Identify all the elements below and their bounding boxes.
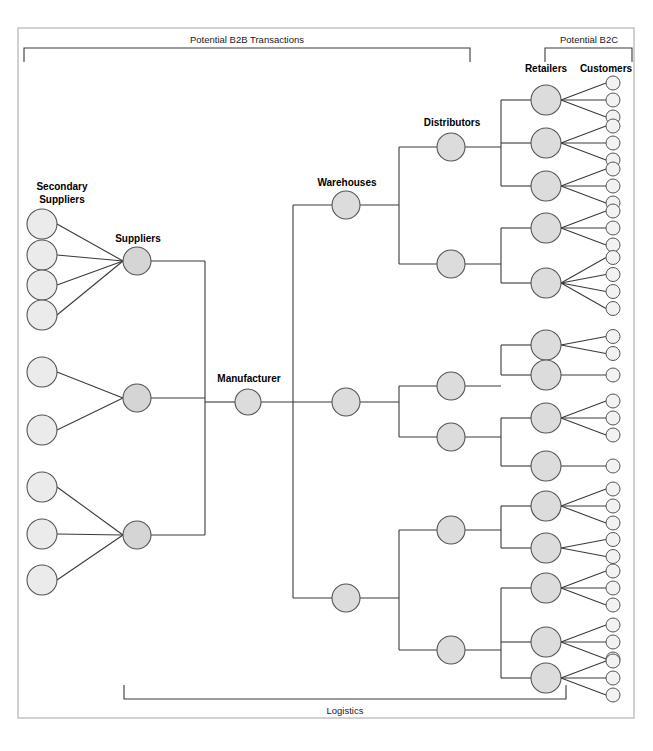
b2b-bracket-label: Potential B2B Transactions xyxy=(190,34,304,45)
node-customer[interactable] xyxy=(606,482,620,496)
node-supplier[interactable] xyxy=(123,521,151,549)
node-warehouse[interactable] xyxy=(332,191,360,219)
node-distributor[interactable] xyxy=(437,133,465,161)
node-customer[interactable] xyxy=(606,671,620,685)
node-retailer[interactable] xyxy=(531,213,561,243)
node-distributor[interactable] xyxy=(437,516,465,544)
retailers-label: Retailers xyxy=(525,63,568,74)
node-customer[interactable] xyxy=(606,368,620,382)
node-customer[interactable] xyxy=(606,268,620,282)
node-customer[interactable] xyxy=(606,428,620,442)
node-customer[interactable] xyxy=(606,564,620,578)
node-customer[interactable] xyxy=(606,499,620,513)
node-customer[interactable] xyxy=(606,347,620,361)
supply-chain-diagram: Potential B2B TransactionsPotential B2CL… xyxy=(0,0,653,751)
node-retailer[interactable] xyxy=(531,573,561,603)
node-secondary-supplier[interactable] xyxy=(27,565,57,595)
node-customer[interactable] xyxy=(606,162,620,176)
node-retailer[interactable] xyxy=(531,451,561,481)
node-secondary-supplier[interactable] xyxy=(27,270,57,300)
node-retailer[interactable] xyxy=(531,663,561,693)
node-customer[interactable] xyxy=(606,251,620,265)
node-retailer[interactable] xyxy=(531,128,561,158)
customers-label: Customers xyxy=(580,63,633,74)
node-distributor[interactable] xyxy=(437,372,465,400)
node-customer[interactable] xyxy=(606,285,620,299)
node-customer[interactable] xyxy=(606,93,620,107)
node-secondary-supplier[interactable] xyxy=(27,209,57,239)
node-customer[interactable] xyxy=(606,221,620,235)
node-customer[interactable] xyxy=(606,688,620,702)
node-customer[interactable] xyxy=(606,654,620,668)
node-secondary-supplier[interactable] xyxy=(27,300,57,330)
node-manufacturer[interactable] xyxy=(235,389,261,415)
node-customer[interactable] xyxy=(606,136,620,150)
node-retailer[interactable] xyxy=(531,85,561,115)
secondary-suppliers-label-line1: Secondary xyxy=(36,181,88,192)
node-retailer[interactable] xyxy=(531,627,561,657)
node-customer[interactable] xyxy=(606,635,620,649)
node-supplier[interactable] xyxy=(123,384,151,412)
node-customer[interactable] xyxy=(606,618,620,632)
node-secondary-supplier[interactable] xyxy=(27,415,57,445)
node-secondary-supplier[interactable] xyxy=(27,519,57,549)
diagram-canvas: Potential B2B TransactionsPotential B2CL… xyxy=(0,0,653,751)
node-retailer[interactable] xyxy=(531,330,561,360)
node-secondary-supplier[interactable] xyxy=(27,240,57,270)
node-customer[interactable] xyxy=(606,516,620,530)
node-customer[interactable] xyxy=(606,76,620,90)
node-customer[interactable] xyxy=(606,581,620,595)
b2c-bracket-label: Potential B2C xyxy=(560,34,618,45)
node-distributor[interactable] xyxy=(437,636,465,664)
node-retailer[interactable] xyxy=(531,360,561,390)
node-customer[interactable] xyxy=(606,598,620,612)
node-retailer[interactable] xyxy=(531,533,561,563)
node-customer[interactable] xyxy=(606,238,620,252)
node-customer[interactable] xyxy=(606,302,620,316)
node-distributor[interactable] xyxy=(437,250,465,278)
suppliers-label: Suppliers xyxy=(115,233,161,244)
node-warehouse[interactable] xyxy=(332,388,360,416)
node-customer[interactable] xyxy=(606,459,620,473)
node-distributor[interactable] xyxy=(437,423,465,451)
node-customer[interactable] xyxy=(606,394,620,408)
node-customer[interactable] xyxy=(606,204,620,218)
node-retailer[interactable] xyxy=(531,171,561,201)
node-secondary-supplier[interactable] xyxy=(27,472,57,502)
node-customer[interactable] xyxy=(606,330,620,344)
node-customer[interactable] xyxy=(606,179,620,193)
node-retailer[interactable] xyxy=(531,491,561,521)
node-supplier[interactable] xyxy=(123,247,151,275)
manufacturer-label: Manufacturer xyxy=(217,373,280,384)
node-customer[interactable] xyxy=(606,119,620,133)
node-retailer[interactable] xyxy=(531,268,561,298)
secondary-suppliers-label-line2: Suppliers xyxy=(39,194,85,205)
logistics-bracket-label: Logistics xyxy=(327,705,364,716)
node-retailer[interactable] xyxy=(531,403,561,433)
distributors-label: Distributors xyxy=(424,117,481,128)
node-customer[interactable] xyxy=(606,411,620,425)
node-secondary-supplier[interactable] xyxy=(27,357,57,387)
warehouses-label: Warehouses xyxy=(317,177,377,188)
node-warehouse[interactable] xyxy=(332,584,360,612)
node-customer[interactable] xyxy=(606,550,620,564)
node-customer[interactable] xyxy=(606,533,620,547)
